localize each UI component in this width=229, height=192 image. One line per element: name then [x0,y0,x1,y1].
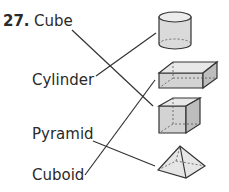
match-line-cuboid [85,80,155,175]
cuboid-shape [159,62,217,88]
match-line-pyramid [93,141,155,166]
match-line-cube [72,30,153,106]
pyramid-shape [158,146,205,178]
matching-diagram [0,0,229,192]
cylinder-shape [159,12,191,49]
match-line-cylinder [96,33,156,76]
cube-shape [159,98,200,133]
